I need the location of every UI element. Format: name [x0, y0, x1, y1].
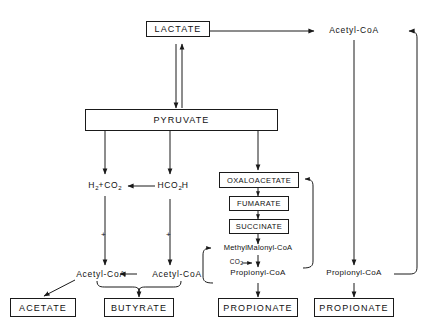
- node-h2-co2[interactable]: H2+CO2: [78, 180, 132, 191]
- node-acetyl-coa-mid[interactable]: Acetyl-CoA: [141, 269, 213, 279]
- node-propionate-center[interactable]: PROPIONATE: [218, 298, 298, 317]
- plus-marker-right-label: +: [166, 230, 171, 239]
- edge-methylmalonyl-loop-to-oxaloacetate: [303, 179, 313, 268]
- node-fumarate-label: FUMARATE: [237, 199, 281, 208]
- node-acetyl-coa-top-right-label: Acetyl-CoA: [329, 25, 379, 35]
- node-succinate[interactable]: SUCCINATE: [229, 219, 289, 234]
- node-methylmalonyl-coa-label: MethylMalonyl-CoA: [224, 243, 292, 252]
- node-oxaloacetate-label: OXALOACETATE: [227, 176, 291, 185]
- node-propionyl-coa-right-label: Propionyl-CoA: [326, 268, 381, 277]
- node-acetate-label: ACETATE: [19, 303, 67, 313]
- node-propionate-right-label: PROPIONATE: [319, 303, 388, 313]
- plus-marker-left: +: [101, 230, 106, 239]
- node-acetyl-coa-left-label: Acetyl-CoA: [76, 269, 126, 279]
- diagram-connectors: [0, 0, 429, 335]
- node-h2-co2-plus: +CO: [99, 180, 119, 190]
- edge-acetylcoa-to-acetate: [44, 280, 75, 296]
- node-acetyl-coa-top-right[interactable]: Acetyl-CoA: [318, 25, 390, 35]
- node-propionyl-coa-right[interactable]: Propionyl-CoA: [311, 268, 397, 277]
- node-butyrate[interactable]: BUTYRATE: [104, 298, 174, 317]
- pathway-diagram: LACTATE Acetyl-CoA PYRUVATE H2+CO2 HCO2H…: [0, 0, 429, 335]
- node-hco2h-tail: H: [182, 180, 189, 190]
- node-fumarate[interactable]: FUMARATE: [229, 196, 289, 211]
- node-acetyl-coa-mid-label: Acetyl-CoA: [152, 269, 202, 279]
- node-pyruvate[interactable]: PYRUVATE: [85, 109, 278, 131]
- edge-propionylcoa-right-return-loop: [394, 31, 417, 274]
- node-propionate-right[interactable]: PROPIONATE: [314, 298, 394, 317]
- node-propionyl-coa-center-label: Propionyl-CoA: [230, 268, 285, 277]
- plus-marker-right: +: [166, 230, 171, 239]
- node-oxaloacetate[interactable]: OXALOACETATE: [219, 172, 299, 188]
- node-pyruvate-label: PYRUVATE: [154, 115, 210, 125]
- node-methylmalonyl-coa[interactable]: MethylMalonyl-CoA: [210, 243, 306, 252]
- node-propionyl-coa-center[interactable]: Propionyl-CoA: [215, 268, 301, 277]
- plus-marker-left-label: +: [101, 230, 106, 239]
- node-lactate-label: LACTATE: [155, 24, 202, 34]
- node-succinate-label: SUCCINATE: [236, 222, 282, 231]
- node-butyrate-label: BUTYRATE: [111, 303, 167, 313]
- node-co2-release-main: CO: [230, 258, 240, 265]
- node-lactate[interactable]: LACTATE: [146, 21, 210, 37]
- node-h2-co2-sub2: 2: [118, 185, 121, 191]
- node-hco2h[interactable]: HCO2H: [150, 180, 196, 191]
- node-propionate-center-label: PROPIONATE: [223, 303, 292, 313]
- node-acetyl-coa-left[interactable]: Acetyl-CoA: [65, 269, 137, 279]
- node-co2-release-sub: 2: [240, 260, 243, 266]
- node-hco2h-main: HCO: [157, 180, 178, 190]
- node-acetate[interactable]: ACETATE: [10, 298, 76, 317]
- node-co2-release: CO2: [219, 258, 243, 266]
